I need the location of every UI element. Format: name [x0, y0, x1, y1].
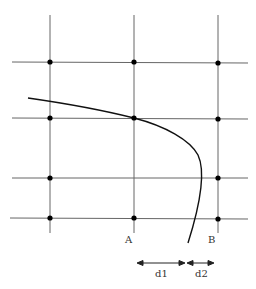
dot	[215, 60, 220, 65]
dot	[47, 59, 52, 64]
label-distance-d1: d1	[155, 269, 168, 279]
dot	[47, 115, 52, 120]
label-point-b: B	[208, 235, 215, 245]
horizontal-grid-lines	[10, 62, 248, 219]
dot	[131, 215, 136, 220]
dot	[47, 175, 52, 180]
d2-arrow-left-head	[187, 261, 193, 266]
diagram-svg	[0, 0, 256, 289]
dot	[215, 175, 220, 180]
dot	[215, 216, 220, 221]
d1-arrow-right-head	[179, 261, 185, 266]
curve-path	[28, 98, 202, 243]
grid-diagram: A B d1 d2	[0, 0, 256, 289]
horizontal-line-4	[10, 218, 248, 219]
label-point-a: A	[125, 235, 132, 245]
dot	[131, 115, 136, 120]
d1-arrow-left-head	[137, 261, 143, 266]
dot	[47, 215, 52, 220]
dot	[131, 59, 136, 64]
dimension-arrows	[137, 261, 214, 266]
vertical-grid-lines	[50, 15, 218, 233]
horizontal-line-1	[12, 62, 248, 63]
dot	[215, 116, 220, 121]
horizontal-line-2	[12, 118, 248, 119]
d2-arrow-right-head	[208, 261, 214, 266]
label-distance-d2: d2	[195, 269, 208, 279]
